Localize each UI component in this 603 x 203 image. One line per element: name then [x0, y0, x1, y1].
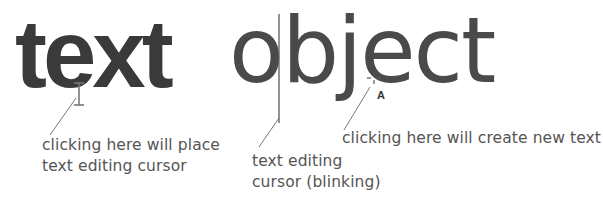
label-line: clicking here will place — [42, 135, 220, 156]
annotation-caret: text editing cursor (blinking) — [252, 151, 381, 193]
label-line: text editing cursor — [42, 156, 220, 177]
label-line: text editing — [252, 151, 381, 172]
label-line: cursor (blinking) — [252, 172, 381, 193]
label-line: clicking here will create new text — [342, 128, 601, 149]
annotation-create-text: clicking here will create new text — [342, 128, 601, 149]
annotation-place-cursor: clicking here will place text editing cu… — [42, 135, 220, 177]
svg-text:A: A — [377, 89, 385, 101]
type-tool-crosshair-icon: A — [367, 72, 385, 101]
i-beam-cursor-icon — [74, 83, 84, 105]
